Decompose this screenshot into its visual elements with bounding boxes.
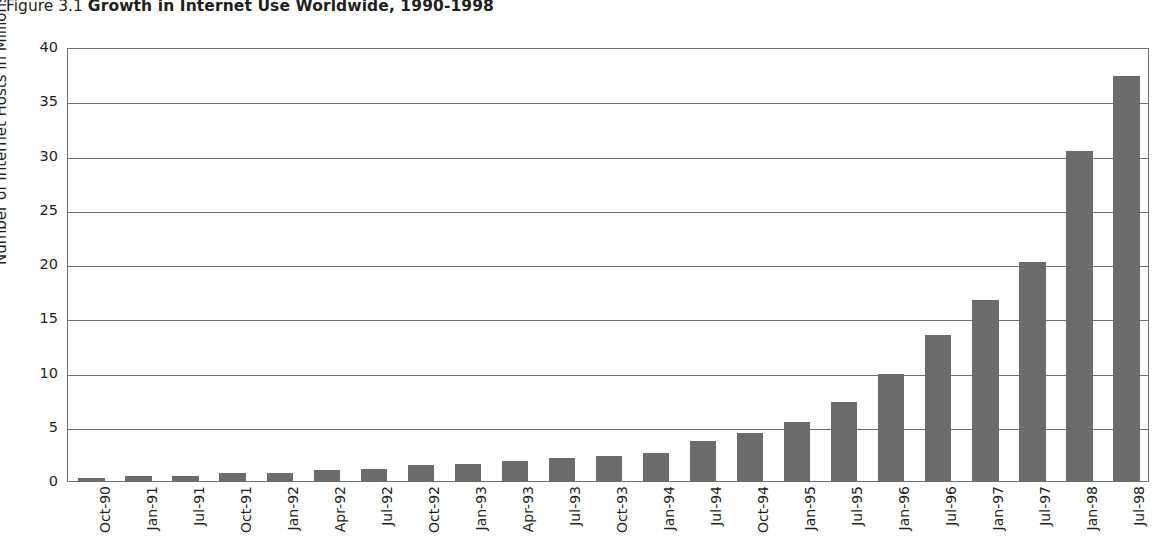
x-axis-tick-label: Jan-91 [144,486,160,530]
bar [1113,76,1139,481]
bar [1066,151,1092,481]
plot-area [67,48,1149,482]
bar [314,470,340,481]
x-axis-tick-label: Jul-92 [379,486,395,526]
bar [925,335,951,481]
x-axis-tick-label: Jan-93 [473,486,489,530]
bar [784,422,810,481]
x-axis-tick-label: Jan-98 [1084,486,1100,530]
x-axis-tick-label: Jul-96 [943,486,959,526]
x-axis-tick-label: Jan-96 [896,486,912,530]
bar [502,461,528,481]
y-axis-tick-label: 10 [10,365,58,381]
x-axis-tick-label: Oct-94 [755,486,771,533]
bar [643,453,669,481]
x-axis-tick-label: Oct-90 [97,486,113,533]
x-axis-tick-label: Jan-97 [990,486,1006,530]
bar [455,464,481,481]
y-axis-tick-label: 0 [10,473,58,489]
x-axis-tick-label: Jul-94 [708,486,724,526]
x-axis-tick-label: Jul-98 [1131,486,1147,526]
y-axis-tick-label: 30 [10,148,58,164]
x-axis-tick-label: Oct-91 [238,486,254,533]
y-axis-tick-label: 20 [10,256,58,272]
bars-group [68,49,1148,481]
bar [596,456,622,481]
x-axis-tick-label: Jan-92 [285,486,301,530]
x-axis-tick-label: Jul-97 [1037,486,1053,526]
x-axis-tick-label: Oct-92 [426,486,442,533]
x-axis-tick-label: Jul-91 [191,486,207,526]
x-axis-tick-label: Jan-95 [802,486,818,530]
bar [737,433,763,481]
x-axis-tick-label: Jan-94 [661,486,677,530]
x-axis-tick-label: Jul-95 [849,486,865,526]
y-axis-tick-label: 15 [10,310,58,326]
y-axis-tick-label: 5 [10,419,58,435]
bar-chart: Number of Internet Hosts in Millions 051… [0,0,1162,548]
bar [831,402,857,481]
bar [219,473,245,481]
bar [690,441,716,481]
bar [408,465,434,481]
x-axis-tick-label: Apr-92 [332,486,348,532]
bar [172,476,198,481]
x-axis-tick-label: Oct-93 [614,486,630,533]
bar [1019,262,1045,481]
y-axis-tick-label: 35 [10,93,58,109]
bar [267,473,293,481]
bar [361,469,387,481]
bar [549,458,575,481]
bar [878,374,904,481]
bar [125,476,151,481]
y-axis-tick-label: 40 [10,39,58,55]
bar [78,478,104,481]
x-axis-tick-label: Apr-93 [520,486,536,532]
x-axis-tick-labels: Oct-90Jan-91Jul-91Oct-91Jan-92Apr-92Jul-… [67,484,1149,548]
y-axis-title: Number of Internet Hosts in Millions [0,0,10,265]
bar [972,300,998,481]
y-axis-tick-label: 25 [10,202,58,218]
x-axis-tick-label: Jul-93 [567,486,583,526]
